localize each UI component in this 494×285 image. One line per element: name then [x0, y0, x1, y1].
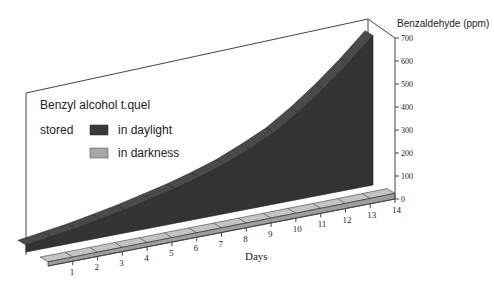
y-tick-label: 200 [401, 149, 413, 158]
legend-title: Benzyl alcohol t.quel [40, 98, 150, 112]
x-tick-label: 13 [367, 210, 377, 220]
y-tick-label: 500 [401, 80, 413, 89]
y-tick-label: 700 [401, 34, 413, 43]
y-axis-label: Benzaldehyde (ppm) [397, 18, 489, 29]
y-tick-label: 0 [401, 195, 405, 204]
x-tick-label: 6 [194, 243, 199, 253]
chart-3d-ribbon: 0100200300400500600700 Benzaldehyde (ppm… [0, 0, 494, 285]
legend-subtitle: stored [40, 123, 73, 137]
x-tick-label: 11 [318, 219, 327, 229]
legend-label-daylight: in daylight [118, 123, 173, 137]
legend-label-darkness: in darkness [118, 146, 179, 160]
x-tick-label: 8 [243, 234, 248, 244]
legend-swatch-darkness [90, 148, 108, 158]
y-tick-label: 100 [401, 172, 413, 181]
x-tick-label: 3 [119, 258, 124, 268]
legend-swatch-daylight [90, 125, 108, 135]
x-tick-label: 14 [392, 205, 402, 215]
x-tick-label: 9 [268, 229, 273, 239]
x-tick-label: 10 [293, 224, 303, 234]
x-tick-label: 12 [342, 215, 351, 225]
x-tick-label: 1 [70, 267, 75, 277]
x-tick-label: 4 [144, 253, 149, 263]
y-axis-ticks: 0100200300400500600700 [395, 34, 413, 204]
y-tick-label: 300 [401, 126, 413, 135]
ribbon-group [18, 31, 395, 266]
y-tick-label: 400 [401, 103, 413, 112]
y-tick-label: 600 [401, 57, 413, 66]
x-tick-label: 2 [95, 262, 100, 272]
x-axis-label: Days [245, 250, 268, 262]
legend: Benzyl alcohol t.quel stored in daylight… [40, 98, 179, 160]
x-tick-label: 5 [169, 248, 174, 258]
x-tick-label: 7 [219, 239, 224, 249]
